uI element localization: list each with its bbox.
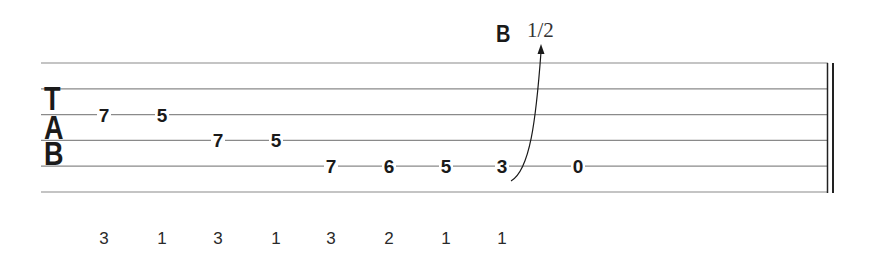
finger-number: 3 (99, 229, 108, 248)
double-barline (828, 63, 834, 193)
staff-lines (41, 63, 828, 192)
bend-label: B (496, 21, 510, 48)
finger-number: 2 (384, 229, 393, 248)
clef-letter-b: B (44, 134, 63, 172)
finger-number: 1 (271, 229, 280, 248)
finger-number: 1 (497, 229, 506, 248)
finger-number: 3 (326, 229, 335, 248)
bend-arrowhead-icon (538, 44, 545, 54)
fret-number: 6 (384, 156, 395, 177)
fret-number: 5 (271, 130, 282, 151)
finger-number: 1 (441, 229, 450, 248)
fingering-row: 31313211 (99, 229, 506, 248)
fret-number: 5 (157, 105, 168, 126)
fret-number: 7 (213, 130, 224, 151)
finger-number: 3 (213, 229, 222, 248)
finger-number: 1 (157, 229, 166, 248)
bend-arrow-curve (511, 52, 541, 181)
fret-number: 0 (573, 156, 584, 177)
fret-number: 3 (497, 156, 508, 177)
tablature-staff: T A B 757576530 31313211 B 1/2 (0, 0, 875, 254)
fret-number: 5 (441, 156, 452, 177)
bend-amount: 1/2 (527, 18, 554, 42)
fret-number: 7 (326, 156, 337, 177)
fret-number: 7 (99, 105, 110, 126)
tab-clef: T A B (44, 79, 63, 172)
